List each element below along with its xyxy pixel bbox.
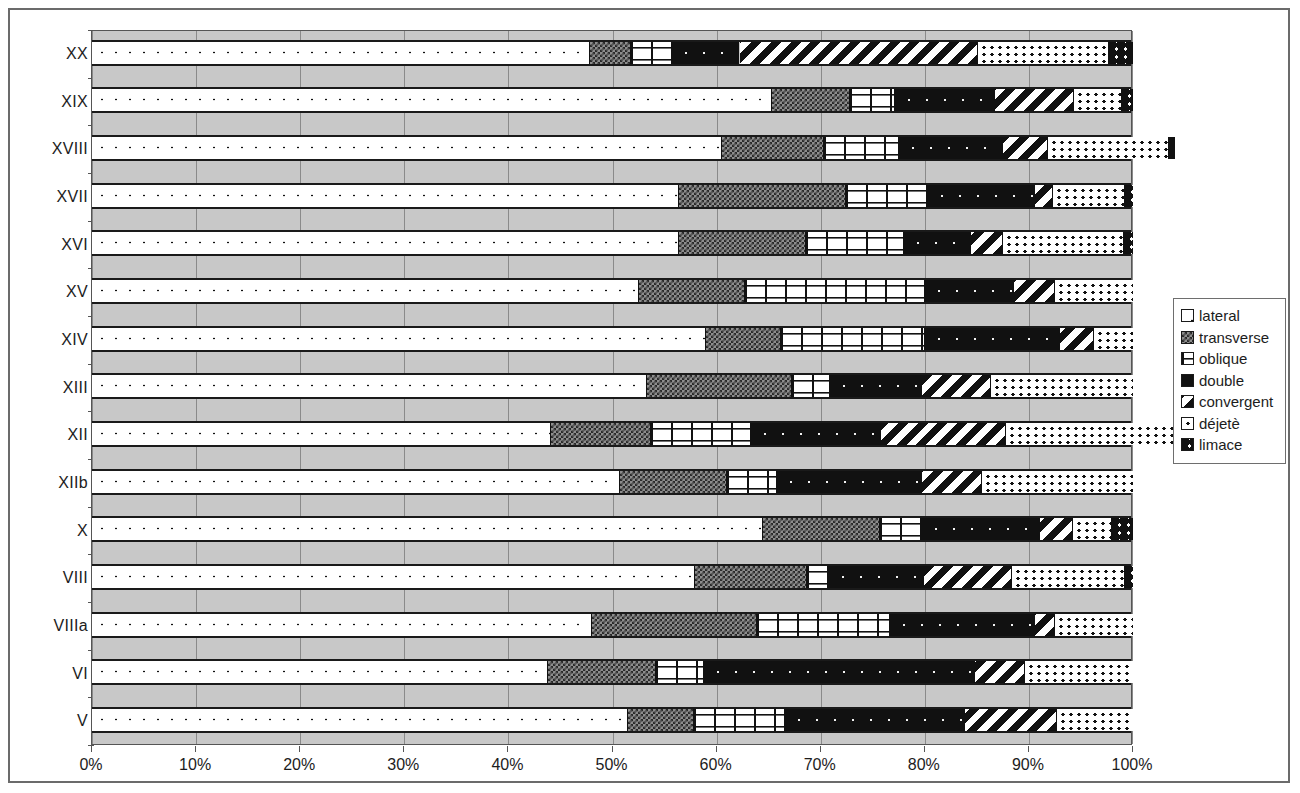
bar-segment-double[interactable] [704, 661, 975, 683]
bar-segment-dejete[interactable] [991, 375, 1133, 397]
bar-segment-transverse[interactable] [763, 518, 880, 540]
bar-segment-convergent[interactable] [881, 423, 1006, 445]
bar-segment-double[interactable] [895, 89, 995, 111]
bar-segment-limace[interactable] [1124, 232, 1133, 254]
bar-segment-convergent[interactable] [1040, 518, 1072, 540]
stacked-bar[interactable] [92, 659, 1131, 685]
stacked-bar[interactable] [92, 183, 1131, 209]
bar-segment-double[interactable] [904, 232, 971, 254]
bar-segment-convergent[interactable] [922, 471, 982, 493]
bar-segment-double[interactable] [830, 375, 922, 397]
bar-segment-dejete[interactable] [1055, 280, 1133, 302]
stacked-bar[interactable] [92, 278, 1131, 304]
bar-segment-double[interactable] [925, 280, 1015, 302]
bar-segment-convergent[interactable] [995, 89, 1074, 111]
bar-segment-oblique[interactable] [824, 137, 899, 159]
bar-segment-convergent[interactable] [1035, 185, 1053, 207]
bar-segment-transverse[interactable] [548, 661, 656, 683]
bar-segment-oblique[interactable] [850, 89, 895, 111]
bar-segment-lateral[interactable] [92, 280, 639, 302]
bar-segment-lateral[interactable] [92, 232, 679, 254]
legend-item[interactable]: lateral [1181, 305, 1278, 327]
bar-segment-double[interactable] [751, 423, 881, 445]
bar-segment-limace[interactable] [1112, 518, 1133, 540]
bar-segment-oblique[interactable] [792, 375, 831, 397]
bar-segment-oblique[interactable] [656, 661, 704, 683]
bar-segment-limace[interactable] [1109, 42, 1133, 64]
stacked-bar[interactable] [92, 516, 1131, 542]
bar-segment-lateral[interactable] [92, 328, 706, 350]
bar-segment-convergent[interactable] [1003, 137, 1048, 159]
bar-segment-convergent[interactable] [922, 375, 992, 397]
stacked-bar[interactable] [92, 373, 1131, 399]
legend-item[interactable]: convergent [1181, 391, 1278, 413]
legend-item[interactable]: déjetè [1181, 413, 1278, 435]
bar-segment-lateral[interactable] [92, 423, 551, 445]
bar-segment-double[interactable] [928, 185, 1035, 207]
bar-segment-double[interactable] [890, 614, 1035, 636]
bar-segment-lateral[interactable] [92, 185, 679, 207]
stacked-bar[interactable] [92, 87, 1131, 113]
bar-segment-limace[interactable] [1125, 566, 1133, 588]
bar-segment-double[interactable] [925, 328, 1060, 350]
bar-segment-transverse[interactable] [620, 471, 727, 493]
bar-segment-oblique[interactable] [694, 709, 786, 731]
bar-segment-oblique[interactable] [806, 232, 904, 254]
stacked-bar[interactable] [92, 707, 1131, 733]
bar-segment-double[interactable] [672, 42, 740, 64]
bar-segment-dejete[interactable] [1055, 614, 1133, 636]
bar-segment-double[interactable] [922, 518, 1041, 540]
bar-segment-double[interactable] [777, 471, 922, 493]
bar-segment-transverse[interactable] [639, 280, 745, 302]
bar-segment-oblique[interactable] [846, 185, 928, 207]
bar-segment-transverse[interactable] [695, 566, 807, 588]
bar-segment-limace[interactable] [1122, 89, 1133, 111]
bar-segment-lateral[interactable] [92, 375, 647, 397]
stacked-bar[interactable] [92, 40, 1131, 66]
bar-segment-lateral[interactable] [92, 471, 620, 493]
bar-segment-lateral[interactable] [92, 518, 763, 540]
bar-segment-double[interactable] [829, 566, 924, 588]
stacked-bar[interactable] [92, 135, 1131, 161]
bar-segment-convergent[interactable] [1035, 614, 1055, 636]
bar-segment-transverse[interactable] [647, 375, 792, 397]
bar-segment-transverse[interactable] [679, 232, 806, 254]
bar-segment-oblique[interactable] [745, 280, 925, 302]
bar-segment-oblique[interactable] [631, 42, 672, 64]
stacked-bar[interactable] [92, 326, 1131, 352]
legend-item[interactable]: transverse [1181, 327, 1278, 349]
bar-segment-double[interactable] [785, 709, 965, 731]
bar-segment-transverse[interactable] [722, 137, 824, 159]
bar-segment-transverse[interactable] [628, 709, 694, 731]
stacked-bar[interactable] [92, 230, 1131, 256]
bar-segment-convergent[interactable] [740, 42, 978, 64]
bar-segment-convergent[interactable] [965, 709, 1057, 731]
bar-segment-dejete[interactable] [1074, 89, 1122, 111]
stacked-bar[interactable] [92, 421, 1131, 447]
bar-segment-convergent[interactable] [924, 566, 1012, 588]
bar-segment-lateral[interactable] [92, 566, 695, 588]
legend-item[interactable]: oblique [1181, 348, 1278, 370]
bar-segment-dejete[interactable] [1012, 566, 1124, 588]
bar-segment-limace[interactable] [1169, 137, 1174, 159]
legend-item[interactable]: limace [1181, 434, 1278, 456]
bar-segment-lateral[interactable] [92, 709, 628, 731]
bar-segment-oblique[interactable] [781, 328, 925, 350]
bar-segment-transverse[interactable] [590, 42, 632, 64]
bar-segment-oblique[interactable] [880, 518, 922, 540]
bar-segment-limace[interactable] [1125, 185, 1133, 207]
bar-segment-oblique[interactable] [727, 471, 777, 493]
bar-segment-oblique[interactable] [651, 423, 751, 445]
bar-segment-dejete[interactable] [978, 42, 1109, 64]
bar-segment-transverse[interactable] [679, 185, 846, 207]
bar-segment-double[interactable] [899, 137, 1003, 159]
bar-segment-dejete[interactable] [1048, 137, 1170, 159]
stacked-bar[interactable] [92, 564, 1131, 590]
bar-segment-lateral[interactable] [92, 89, 772, 111]
legend-item[interactable]: double [1181, 370, 1278, 392]
bar-segment-transverse[interactable] [772, 89, 850, 111]
bar-segment-lateral[interactable] [92, 137, 722, 159]
bar-segment-transverse[interactable] [592, 614, 758, 636]
bar-segment-convergent[interactable] [1060, 328, 1094, 350]
bar-segment-convergent[interactable] [1014, 280, 1055, 302]
